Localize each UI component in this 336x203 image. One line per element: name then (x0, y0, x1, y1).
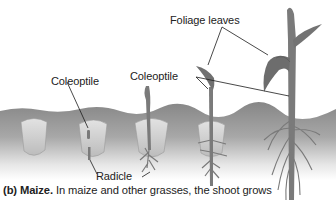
caption-prefix: (b) Maize. (3, 184, 53, 196)
figure-caption: (b) Maize. In maize and other grasses, t… (3, 184, 272, 196)
coleoptile-label-right: Coleoptile (130, 71, 178, 82)
foliage-leaves-label: Foliage leaves (170, 15, 240, 26)
soil (0, 102, 336, 180)
foliage-leader-1 (208, 27, 222, 65)
caption-text: In maize and other grasses, the shoot gr… (53, 184, 272, 196)
radicle-label: Radicle (96, 171, 132, 182)
coleoptile-label-left: Coleoptile (51, 76, 99, 87)
germination-illustration (0, 0, 336, 203)
seed-stage-1 (21, 119, 47, 156)
foliage-leader-2 (222, 27, 268, 55)
maize-germination-figure: Foliage leaves Coleoptile Coleoptile Rad… (0, 0, 336, 203)
